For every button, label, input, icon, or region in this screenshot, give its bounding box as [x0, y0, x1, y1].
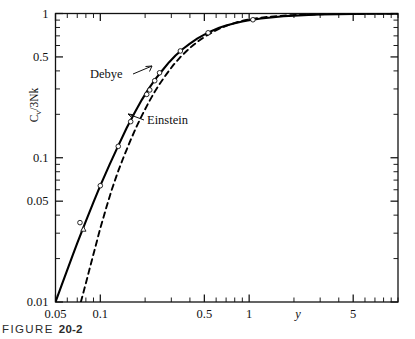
x-axis-label: y [293, 307, 301, 321]
axis-labels: 0.050.10.5150.010.050.10.51yCv/3Nk [27, 7, 357, 321]
data-point-marker [78, 220, 83, 225]
debye-annotation-label: Debye [90, 67, 123, 81]
data-point-marker [157, 71, 162, 76]
debye-annotation-leader-arrow [133, 66, 152, 74]
figure-caption-word: FIGURE [2, 323, 54, 335]
curve-annotations: DebyeEinstein [90, 66, 189, 127]
x-tick-label: 5 [350, 307, 356, 321]
y-axis-label: Cv/3Nk [28, 87, 43, 122]
series-curve-einstein [81, 14, 398, 302]
data-point-marker [251, 17, 256, 22]
plot-area: DebyeEinstein 0.050.10.5150.010.050.10.5… [0, 0, 415, 339]
data-point-marker [206, 30, 211, 35]
data-point-marker [81, 227, 86, 232]
y-tick-label: 0.01 [27, 295, 49, 309]
y-tick-label: 0.5 [33, 50, 49, 64]
data-point-marker [128, 119, 133, 124]
y-tick-label: 0.05 [27, 194, 49, 208]
data-point-marker [152, 78, 157, 83]
y-tick-label: 0.1 [33, 151, 49, 165]
figure-container: DebyeEinstein 0.050.10.5150.010.050.10.5… [0, 0, 415, 339]
data-point-marker [147, 88, 152, 93]
x-tick-label: 1 [246, 307, 252, 321]
plot-frame [56, 14, 399, 303]
data-point-marker [98, 183, 103, 188]
data-point-marker [116, 144, 121, 149]
axis-ticks [56, 14, 399, 303]
figure-caption: FIGURE 20-2 [2, 320, 83, 337]
data-point-marker [178, 49, 183, 54]
einstein-annotation-label: Einstein [147, 113, 189, 127]
data-series [56, 14, 399, 302]
data-point-marker [144, 92, 149, 97]
x-tick-label: 0.5 [197, 307, 213, 321]
series-curve-debye [56, 14, 399, 302]
x-tick-label: 0.1 [92, 307, 108, 321]
svg-text:Cv/3Nk: Cv/3Nk [28, 87, 43, 122]
figure-caption-number: 20-2 [59, 323, 83, 335]
y-tick-label: 1 [42, 7, 48, 21]
